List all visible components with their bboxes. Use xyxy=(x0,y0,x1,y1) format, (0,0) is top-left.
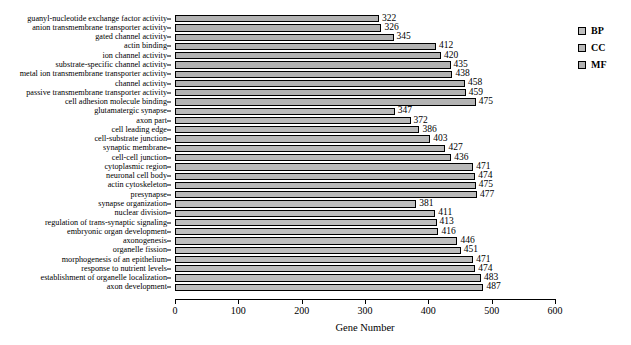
bar xyxy=(175,256,473,263)
y-axis-label: synaptic membrane xyxy=(103,144,167,152)
x-axis-tick xyxy=(365,299,366,304)
bar-row: 372 xyxy=(175,116,555,125)
x-axis-tick-label: 500 xyxy=(484,306,499,316)
bar-row: 438 xyxy=(175,70,555,79)
bar xyxy=(175,15,379,22)
y-axis-label: presynapse xyxy=(131,191,167,199)
y-axis-label: neuronal cell body xyxy=(106,172,167,180)
y-axis-label: guanyl-nucleotide exchange factor activi… xyxy=(27,15,167,23)
plot-area: 3223263454124204354384584594753473723864… xyxy=(175,14,555,292)
y-axis-tick xyxy=(167,148,171,149)
legend-swatch-icon xyxy=(578,27,586,35)
legend-item-cc[interactable]: CC xyxy=(578,41,626,55)
legend-label: BP xyxy=(591,26,604,36)
y-axis-tick xyxy=(167,74,171,75)
y-axis-label: substrate-specific channel activity xyxy=(56,61,167,69)
y-axis-tick xyxy=(167,83,171,84)
bar xyxy=(175,89,466,96)
y-axis-tick xyxy=(167,250,171,251)
x-axis-tick xyxy=(428,299,429,304)
x-axis-tick-label: 0 xyxy=(173,306,178,316)
bar-row: 427 xyxy=(175,144,555,153)
y-axis-tick xyxy=(167,268,171,269)
y-axis-tick xyxy=(167,194,171,195)
bar-row: 322 xyxy=(175,14,555,23)
bar-value-label: 345 xyxy=(394,32,411,42)
bar-row: 451 xyxy=(175,246,555,255)
y-axis-tick xyxy=(167,278,171,279)
bar xyxy=(175,108,395,115)
x-axis-tick-label: 200 xyxy=(294,306,309,316)
bar-row: 403 xyxy=(175,134,555,143)
bar xyxy=(175,145,445,152)
y-axis-tick xyxy=(167,27,171,28)
y-axis-label: regulation of trans-synaptic signaling xyxy=(45,218,167,226)
y-axis-tick xyxy=(167,46,171,47)
x-axis-tick-label: 300 xyxy=(358,306,373,316)
bar xyxy=(175,247,461,254)
y-axis-label: embryonic organ development xyxy=(67,228,167,236)
y-axis-tick xyxy=(167,55,171,56)
legend-swatch-icon xyxy=(578,44,586,52)
y-axis-tick xyxy=(167,139,171,140)
y-axis-tick xyxy=(167,231,171,232)
y-axis-label: axon part xyxy=(136,116,167,124)
y-axis-label: cell-cell junction xyxy=(112,154,167,162)
bar xyxy=(175,126,419,133)
bar xyxy=(175,154,451,161)
go-enrichment-bar-chart: guanyl-nucleotide exchange factor activi… xyxy=(0,0,631,345)
y-axis-tick xyxy=(167,37,171,38)
legend: BPCCMF xyxy=(578,24,626,75)
y-axis-label: actin binding xyxy=(124,42,167,50)
legend-swatch-icon xyxy=(578,61,586,69)
x-axis-tick-label: 600 xyxy=(548,306,563,316)
y-axis-tick xyxy=(167,92,171,93)
bar-row: 411 xyxy=(175,209,555,218)
bar xyxy=(175,98,476,105)
x-axis-tick xyxy=(238,299,239,304)
bar xyxy=(175,274,481,281)
bar-value-label: 477 xyxy=(477,190,494,200)
bar xyxy=(175,200,416,207)
bar xyxy=(175,265,475,272)
legend-item-mf[interactable]: MF xyxy=(578,58,626,72)
bar-row: 487 xyxy=(175,283,555,292)
y-axis-tick xyxy=(167,129,171,130)
y-axis-label: response to nutrient levels xyxy=(81,265,167,273)
y-axis-tick xyxy=(167,203,171,204)
y-axis-tick xyxy=(167,259,171,260)
y-axis-tick xyxy=(167,241,171,242)
bar-value-label: 436 xyxy=(451,153,468,163)
bar-row: 474 xyxy=(175,264,555,273)
bar-value-label: 438 xyxy=(452,69,469,79)
bar-row: 475 xyxy=(175,97,555,106)
bar-value-label: 403 xyxy=(430,134,447,144)
x-axis-title: Gene Number xyxy=(175,322,555,333)
bar-row: 381 xyxy=(175,199,555,208)
legend-item-bp[interactable]: BP xyxy=(578,24,626,38)
y-axis-category-labels: guanyl-nucleotide exchange factor activi… xyxy=(0,14,171,292)
y-axis-label: cell leading edge xyxy=(112,126,167,134)
y-axis-label: axon development xyxy=(107,283,167,291)
bar-row: 413 xyxy=(175,218,555,227)
bar xyxy=(175,117,411,124)
y-axis-label: cell-substrate junction xyxy=(94,135,167,143)
y-axis-label: gated channel activity xyxy=(95,33,167,41)
x-axis-tick xyxy=(492,299,493,304)
bar-row: 435 xyxy=(175,60,555,69)
bar xyxy=(175,43,436,50)
bar-row: 420 xyxy=(175,51,555,60)
y-axis-label: glutamatergic synapse xyxy=(94,107,167,115)
y-axis-tick xyxy=(167,64,171,65)
y-axis-tick xyxy=(167,213,171,214)
bar xyxy=(175,284,483,291)
y-axis-label: axonogenesis xyxy=(123,237,167,245)
y-axis-label: organelle fission xyxy=(113,246,167,254)
bar-row: 436 xyxy=(175,153,555,162)
y-axis-tick xyxy=(167,287,171,288)
bar-row: 471 xyxy=(175,255,555,264)
x-axis-tick-label: 100 xyxy=(231,306,246,316)
bar-row: 416 xyxy=(175,227,555,236)
x-axis-tick xyxy=(555,299,556,304)
y-axis-tick xyxy=(167,222,171,223)
